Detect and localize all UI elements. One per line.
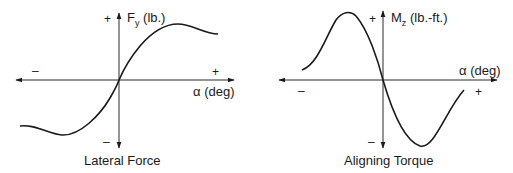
y-plus-sign: +: [104, 12, 111, 26]
panel-title: Aligning Torque: [344, 153, 433, 168]
aligning-torque-panel: + Mz (lb.-ft.) α (deg) – + – Aligning To…: [279, 10, 500, 168]
x-axis-label: α (deg): [193, 84, 234, 99]
y-axis-label: Mz (lb.-ft.): [391, 10, 448, 28]
y-plus-sign: +: [369, 12, 376, 26]
x-minus-sign: –: [298, 84, 305, 98]
x-plus-sign: +: [212, 65, 219, 79]
y-minus-sign: –: [103, 135, 110, 149]
lateral-force-panel: + Fy (lb.) – + α (deg) – Lateral Force: [16, 10, 234, 168]
y-minus-sign: –: [368, 135, 375, 149]
panel-title: Lateral Force: [84, 153, 161, 168]
x-axis-label: α (deg): [459, 63, 500, 78]
y-axis-label: Fy (lb.): [127, 10, 165, 28]
x-plus-sign: +: [475, 85, 482, 99]
x-minus-sign: –: [32, 64, 39, 78]
diagram-canvas: + Fy (lb.) – + α (deg) – Lateral Force +…: [0, 0, 513, 173]
